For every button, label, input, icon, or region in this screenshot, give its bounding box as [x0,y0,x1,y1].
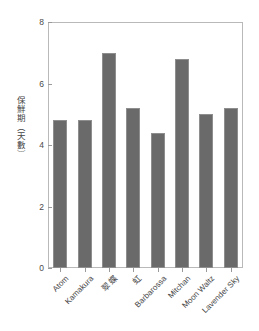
bar [151,133,165,268]
bars-group [48,22,243,268]
y-tick-label: 4 [24,140,44,150]
x-tick-label: Mitchan [166,274,192,300]
x-tick-mark [133,268,134,272]
bar [224,108,238,268]
x-tick-mark [109,268,110,272]
bar [53,120,67,268]
y-tick-label: 8 [24,17,44,27]
x-tick-mark [231,268,232,272]
bar [78,120,92,268]
bar [126,108,140,268]
x-tick-mark [158,268,159,272]
x-tick-label: Atom [51,274,71,294]
x-tick-label: Kamakura [63,274,95,306]
bar [199,114,213,268]
y-axis-title: 保鮮期（天數） [8,96,24,159]
x-tick-label: Barbarossa [133,274,168,309]
bar [102,53,116,268]
x-tick-mark [85,268,86,272]
x-tick-label: Lavender Sky [200,274,241,315]
x-tick-mark [60,268,61,272]
bar-chart: 保鮮期（天數） 02468 AtomKamakura翠蝶虹BarbarossaM… [0,0,259,331]
bar [175,59,189,268]
x-tick-mark [206,268,207,272]
x-tick-label: Moon Waltz [181,274,217,310]
y-tick-label: 0 [24,263,44,273]
x-tick-label: 虹 [131,274,144,287]
y-tick-mark [48,268,52,269]
x-tick-mark [182,268,183,272]
y-tick-label: 6 [24,79,44,89]
x-tick-label: 翠蝶 [100,274,119,293]
y-tick-label: 2 [24,202,44,212]
